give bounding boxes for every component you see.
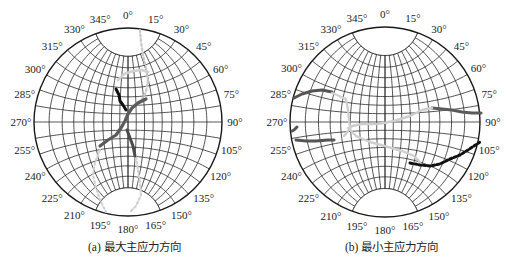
azimuth-tick-label: 270°	[11, 116, 32, 128]
azimuth-tick-label: 195°	[90, 219, 111, 231]
azimuth-tick-label: 120°	[210, 170, 231, 182]
azimuth-tick-label: 90°	[227, 116, 242, 128]
azimuth-tick-label: 315°	[42, 40, 63, 52]
stereonet-panel-a: 0°15°30°45°60°75°90°105°120°135°150°165°…	[11, 9, 243, 235]
azimuth-tick-label: 15°	[148, 13, 163, 25]
azimuth-tick-label: 105°	[221, 144, 242, 156]
azimuth-tick-label: 75°	[482, 88, 497, 100]
azimuth-tick-label: 150°	[429, 210, 450, 222]
azimuth-tick-label: 330°	[64, 23, 85, 35]
azimuth-tick-label: 60°	[471, 62, 486, 74]
azimuth-tick-label: 345°	[90, 13, 111, 25]
azimuth-tick-label: 150°	[171, 209, 192, 221]
azimuth-tick-label: 30°	[174, 23, 189, 35]
azimuth-tick-label: 210°	[64, 209, 85, 221]
stereonet-panel-b: 0°15°30°45°60°75°90°105°120°135°150°165°…	[267, 8, 501, 236]
azimuth-tick-label: 285°	[14, 88, 35, 100]
azimuth-tick-label: 90°	[485, 116, 500, 128]
azimuth-tick-label: 135°	[193, 192, 214, 204]
azimuth-tick-label: 240°	[25, 170, 46, 182]
azimuth-tick-label: 0°	[123, 9, 133, 21]
azimuth-tick-label: 120°	[468, 170, 489, 182]
azimuth-tick-label: 240°	[281, 170, 302, 182]
azimuth-tick-label: 105°	[479, 144, 500, 156]
azimuth-tick-label: 75°	[224, 88, 239, 100]
azimuth-tick-label: 210°	[321, 210, 342, 222]
azimuth-tick-label: 270°	[267, 116, 288, 128]
azimuth-tick-label: 345°	[347, 12, 368, 24]
series-dark-gray-left-stub	[292, 127, 297, 131]
azimuth-tick-label: 135°	[451, 192, 472, 204]
azimuth-tick-label: 165°	[145, 219, 166, 231]
azimuth-tick-label: 255°	[270, 144, 291, 156]
caption-panel-a: (a) 最大主应力方向	[88, 238, 181, 254]
azimuth-tick-label: 225°	[42, 192, 63, 204]
azimuth-tick-label: 60°	[213, 63, 228, 75]
azimuth-tick-label: 195°	[347, 220, 368, 232]
azimuth-tick-label: 225°	[298, 192, 319, 204]
azimuth-tick-label: 45°	[454, 40, 469, 52]
azimuth-tick-label: 315°	[298, 40, 319, 52]
azimuth-tick-label: 0°	[380, 8, 390, 20]
azimuth-tick-label: 285°	[270, 88, 291, 100]
azimuth-tick-label: 300°	[281, 62, 302, 74]
azimuth-tick-label: 330°	[321, 23, 342, 35]
azimuth-tick-label: 165°	[403, 220, 424, 232]
azimuth-tick-label: 300°	[25, 63, 46, 75]
azimuth-tick-label: 45°	[196, 40, 211, 52]
azimuth-tick-label: 15°	[405, 12, 420, 24]
azimuth-tick-label: 180°	[118, 223, 139, 235]
azimuth-tick-label: 255°	[14, 144, 35, 156]
grid	[34, 28, 222, 216]
azimuth-tick-label: 30°	[431, 23, 446, 35]
stereonet-figure: 0°15°30°45°60°75°90°105°120°135°150°165°…	[0, 0, 508, 265]
caption-panel-b: (b) 最小主应力方向	[345, 238, 438, 254]
series-dark-gray-lower-left	[296, 140, 334, 141]
azimuth-tick-label: 180°	[375, 224, 396, 236]
